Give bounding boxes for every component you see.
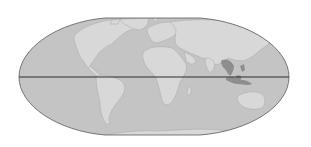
land-new-zealand	[276, 108, 280, 115]
world-map	[0, 0, 311, 147]
land-antarctica	[100, 129, 280, 147]
